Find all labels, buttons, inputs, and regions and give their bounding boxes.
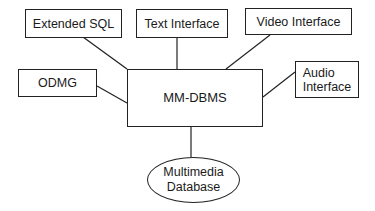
audio-interface-box: Audio Interface [295,61,359,98]
video-interface-box: Video Interface [245,8,352,35]
odmg-label: ODMG [38,76,77,90]
multimedia-database-ellipse: Multimedia Database [147,157,240,203]
mm-dbms-label: MM-DBMS [163,91,227,105]
database-label-line1: Multimedia [163,165,223,180]
audio-interface-label-line2: Interface [303,80,352,94]
edge-odmg [97,86,127,103]
database-label-line2: Database [167,180,221,195]
extended-sql-label: Extended SQL [33,17,114,31]
text-interface-box: Text Interface [136,9,228,38]
text-interface-label: Text Interface [144,17,219,31]
odmg-box: ODMG [18,69,97,97]
audio-interface-label-line1: Audio [303,66,335,80]
edge-audio-interface [263,72,295,97]
extended-sql-box: Extended SQL [25,9,122,38]
edge-video-interface [226,35,270,69]
edge-extended-sql [83,37,127,69]
mm-dbms-box: MM-DBMS [127,69,263,127]
video-interface-label: Video Interface [257,15,341,29]
